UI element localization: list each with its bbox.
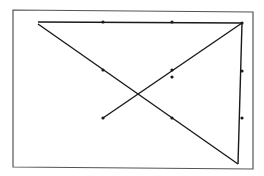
line-diagram bbox=[0, 0, 264, 176]
vertex-dot bbox=[170, 68, 173, 71]
vertex-dot bbox=[240, 21, 243, 24]
vertex-dot bbox=[170, 116, 173, 119]
vertex-dot bbox=[101, 116, 104, 119]
top-edge-line bbox=[38, 22, 242, 23]
vertex-dot bbox=[170, 20, 173, 23]
vertex-dot bbox=[240, 69, 243, 72]
background bbox=[0, 0, 264, 176]
vertex-dot bbox=[101, 68, 104, 71]
vertex-dot bbox=[101, 20, 104, 23]
vertex-dot bbox=[240, 116, 243, 119]
vertex-dot bbox=[170, 75, 173, 78]
